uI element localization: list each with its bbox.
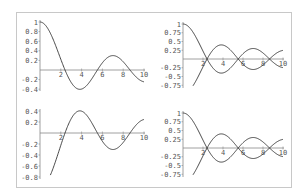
- y-tick-label: 0.4: [25, 108, 38, 116]
- curve-f2: [193, 45, 283, 86]
- x-tick-label: 4: [221, 149, 225, 157]
- curve-f1: [40, 22, 144, 89]
- y-tick-label: 1: [34, 19, 38, 27]
- plot-grid: 24681010.80.60.40.2-0.2-0.4 24681010.750…: [0, 0, 307, 196]
- plot-bottom-left: 2468100.40.2-0.2-0.4-0.6-0.8: [21, 108, 148, 182]
- y-tick-label: 0.6: [25, 38, 38, 46]
- y-tick-label: 0.75: [164, 29, 181, 37]
- x-tick-label: 10: [140, 134, 148, 142]
- plot-bottom-right: 24681010.750.50.25-0.25-0.5-0.75: [160, 110, 287, 179]
- y-tick-label: -0.4: [21, 152, 38, 160]
- y-tick-label: -0.2: [21, 141, 38, 149]
- y-tick-label: 1: [177, 21, 181, 29]
- y-tick-label: -0.2: [21, 76, 38, 84]
- curve-f1: [183, 24, 283, 73]
- y-tick-label: 1: [177, 110, 181, 118]
- y-tick-label: 0.25: [164, 47, 181, 55]
- y-tick-label: -0.75: [160, 82, 181, 90]
- y-tick-label: -0.25: [160, 153, 181, 161]
- y-tick-label: 0.5: [168, 38, 181, 46]
- y-tick-label: 0.2: [25, 57, 38, 65]
- y-tick-label: 0.4: [25, 47, 38, 55]
- x-tick-label: 4: [79, 71, 83, 79]
- x-tick-label: 10: [140, 71, 148, 79]
- y-tick-label: -0.75: [160, 171, 181, 179]
- x-tick-label: 4: [79, 134, 83, 142]
- curve-f2: [193, 134, 283, 175]
- plot-top-left: 24681010.80.60.40.2-0.2-0.4: [21, 19, 148, 94]
- y-tick-label: 0.5: [168, 127, 181, 135]
- y-tick-label: -0.5: [164, 162, 181, 170]
- y-tick-label: 0.75: [164, 118, 181, 126]
- y-tick-label: -0.25: [160, 64, 181, 72]
- y-tick-label: -0.5: [164, 73, 181, 81]
- x-tick-label: 4: [221, 60, 225, 68]
- y-tick-label: 0.2: [25, 119, 38, 127]
- y-tick-label: -0.8: [21, 174, 38, 182]
- x-tick-label: 6: [100, 71, 104, 79]
- x-tick-label: 2: [59, 71, 63, 79]
- y-tick-label: -0.6: [21, 163, 38, 171]
- y-tick-label: -0.4: [21, 86, 38, 94]
- curve-f2: [50, 111, 144, 175]
- y-tick-label: 0.8: [25, 28, 38, 36]
- y-tick-label: 0.25: [164, 136, 181, 144]
- plot-top-right: 24681010.750.50.25-0.25-0.5-0.75: [160, 21, 287, 90]
- curve-f1: [183, 113, 283, 162]
- x-tick-label: 8: [121, 71, 125, 79]
